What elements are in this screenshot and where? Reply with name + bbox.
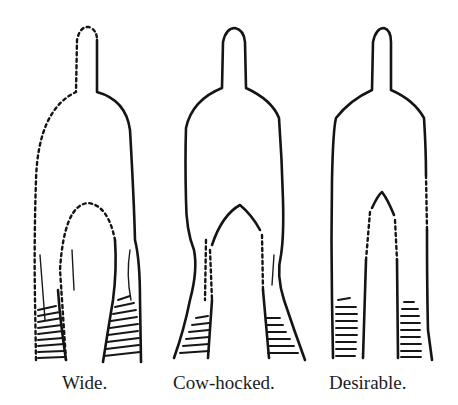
figure-wide <box>35 27 141 362</box>
hind-legs-illustration <box>0 0 458 405</box>
caption-wide: Wide. <box>62 372 107 394</box>
hatching-right <box>401 302 421 357</box>
caption-cow-hocked: Cow-hocked. <box>173 372 275 394</box>
caption-desirable: Desirable. <box>329 372 407 394</box>
figure-desirable <box>332 28 433 360</box>
hatching-left <box>336 298 357 356</box>
figure-cow-hocked <box>174 28 305 360</box>
